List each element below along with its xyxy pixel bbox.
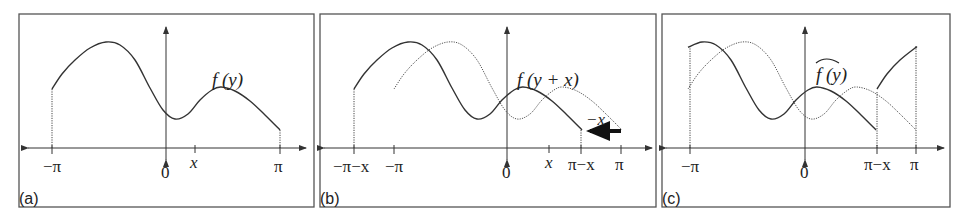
tick-label: x (189, 153, 198, 172)
panel-label: (a) (19, 190, 39, 207)
function-label: f (y) (816, 64, 847, 86)
tick-label: −π (43, 157, 62, 176)
f-hat-curve-wrapped (877, 47, 917, 89)
panel-c: f (y) −π 0 π−x π (c) (662, 14, 950, 207)
panel-b-frame (320, 14, 656, 207)
shift-label: −x (586, 110, 605, 129)
figure-canvas: f (y) −π 0 x π (a) −x f (y + x) −π−x −π … (0, 0, 967, 222)
tick-label: x (544, 153, 553, 172)
panel-a: f (y) −π 0 x π (a) (19, 14, 314, 207)
function-label: f (y) (212, 69, 243, 91)
tick-label: π (910, 155, 919, 174)
tick-label: −π−x (333, 157, 370, 176)
tick-label: 0 (502, 163, 511, 182)
panel-label: (b) (320, 190, 340, 207)
tick-label: π (274, 157, 283, 176)
tick-label: −π (385, 157, 404, 176)
tick-label: −π (681, 157, 700, 176)
tick-label: 0 (800, 163, 809, 182)
tick-label: π (615, 155, 624, 174)
tick-label: π−x (568, 155, 595, 174)
panel-label: (c) (662, 190, 681, 207)
hat-accent-icon (816, 59, 839, 63)
panel-b: −x f (y + x) −π−x −π 0 x π−x π (b) (320, 14, 656, 207)
tick-label: 0 (161, 163, 170, 182)
f-y-original-curve (688, 42, 916, 130)
tick-label: π−x (864, 155, 891, 174)
function-label: f (y + x) (517, 69, 579, 91)
